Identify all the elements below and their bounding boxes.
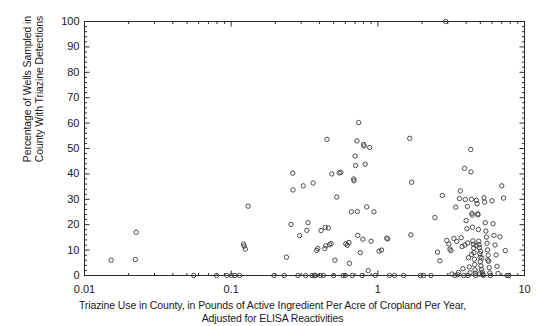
plot-border — [85, 22, 525, 276]
x-axis-label-line-1: Triazine Use in County, in Pounds of Act… — [0, 299, 545, 312]
y-axis-label-line-2: County With Triazine Detections — [33, 0, 45, 199]
y-tick-label: 90 — [50, 41, 80, 52]
y-tick-label: 100 — [50, 16, 80, 27]
y-tick-label: 50 — [50, 143, 80, 154]
x-axis-label: Triazine Use in County, in Pounds of Act… — [0, 299, 545, 325]
y-tick-label: 20 — [50, 219, 80, 230]
x-tick-label: 10 — [503, 284, 545, 295]
x-tick-label: 0.01 — [63, 284, 107, 295]
y-tick-label: 0 — [50, 270, 80, 281]
x-tick-label: 1 — [356, 284, 400, 295]
y-tick-label: 60 — [50, 118, 80, 129]
x-tick-label: 0.1 — [209, 284, 253, 295]
y-tick-label: 30 — [50, 194, 80, 205]
y-tick-label: 80 — [50, 67, 80, 78]
y-tick-label: 40 — [50, 168, 80, 179]
scatter-plot-figure: Percentage of Wells Sampled in County Wi… — [0, 0, 545, 326]
y-tick-label: 70 — [50, 92, 80, 103]
y-axis-label-line-1: Percentage of Wells Sampled in — [21, 0, 33, 199]
x-axis-label-line-2: Adjusted for ELISA Reactivities — [0, 312, 545, 325]
y-tick-label: 10 — [50, 245, 80, 256]
plot-frame — [85, 22, 525, 276]
y-axis-label: Percentage of Wells Sampled in County Wi… — [21, 0, 51, 199]
plot-canvas — [0, 0, 545, 326]
